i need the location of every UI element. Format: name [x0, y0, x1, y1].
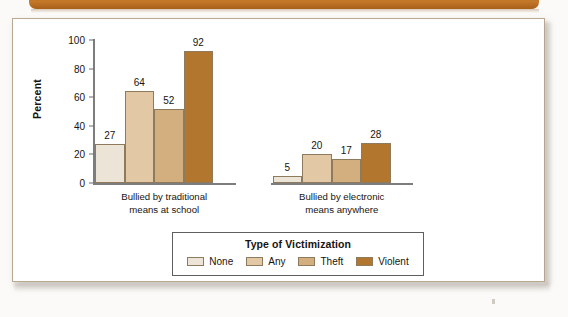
- legend-swatch-icon: [187, 257, 204, 266]
- legend-item-label: None: [209, 256, 233, 267]
- y-axis-label: Percent: [31, 59, 43, 139]
- bar-any-group1: [125, 91, 155, 183]
- chart-panel: Percent 020406080100 27645292Bullied by …: [12, 18, 545, 282]
- bar-value-label: 28: [370, 129, 381, 140]
- legend-item-violent[interactable]: Violent: [356, 256, 408, 267]
- legend-item-label: Any: [268, 256, 285, 267]
- page-speck: [492, 299, 495, 304]
- banner-shadow: [31, 9, 539, 13]
- bar-any-group2: [302, 154, 332, 183]
- y-tick-label: 80: [59, 63, 85, 74]
- y-tick-mark: [89, 97, 94, 98]
- bar-theft-group2: [332, 159, 362, 183]
- top-brown-banner: [29, 0, 539, 9]
- bar-value-label: 92: [193, 37, 204, 48]
- y-tick-label: 20: [59, 149, 85, 160]
- legend-items: NoneAnyTheftViolent: [173, 256, 423, 267]
- bar-none-group1: [95, 144, 125, 183]
- y-axis-ticks: 020406080100: [59, 19, 85, 283]
- panel-drop-shadow: [14, 283, 550, 292]
- x-axis-line: [93, 183, 236, 185]
- x-axis-line: [271, 183, 414, 185]
- chart-legend: Type of Victimization NoneAnyTheftViolen…: [172, 232, 424, 276]
- chart-page: Percent 020406080100 27645292Bullied by …: [0, 0, 568, 317]
- y-tick-mark: [89, 68, 94, 69]
- y-tick-label: 100: [59, 35, 85, 46]
- bar-value-label: 64: [134, 77, 145, 88]
- y-tick-label: 0: [59, 178, 85, 189]
- bar-value-label: 17: [341, 145, 352, 156]
- y-tick-mark: [89, 154, 94, 155]
- x-group-label: Bullied by traditional means at school: [121, 191, 207, 216]
- bar-none-group2: [273, 176, 303, 183]
- bar-theft-group1: [154, 109, 184, 183]
- bar-violent-group1: [184, 51, 214, 183]
- bar-value-label: 20: [311, 140, 322, 151]
- bar-violent-group2: [361, 143, 391, 183]
- y-tick-label: 40: [59, 120, 85, 131]
- x-group-label: Bullied by electronic means anywhere: [299, 191, 384, 216]
- y-tick-label: 60: [59, 92, 85, 103]
- legend-item-label: Theft: [320, 256, 343, 267]
- legend-item-none[interactable]: None: [187, 256, 233, 267]
- legend-swatch-icon: [246, 257, 263, 266]
- legend-swatch-icon: [298, 257, 315, 266]
- bar-value-label: 5: [284, 162, 290, 173]
- y-tick-mark: [89, 125, 94, 126]
- bar-value-label: 52: [163, 95, 174, 106]
- legend-item-theft[interactable]: Theft: [298, 256, 343, 267]
- y-tick-mark: [89, 40, 94, 41]
- legend-swatch-icon: [356, 257, 373, 266]
- bar-value-label: 27: [104, 130, 115, 141]
- legend-item-any[interactable]: Any: [246, 256, 285, 267]
- panel-side-shadow: [545, 22, 553, 284]
- legend-title: Type of Victimization: [173, 238, 423, 250]
- legend-item-label: Violent: [378, 256, 408, 267]
